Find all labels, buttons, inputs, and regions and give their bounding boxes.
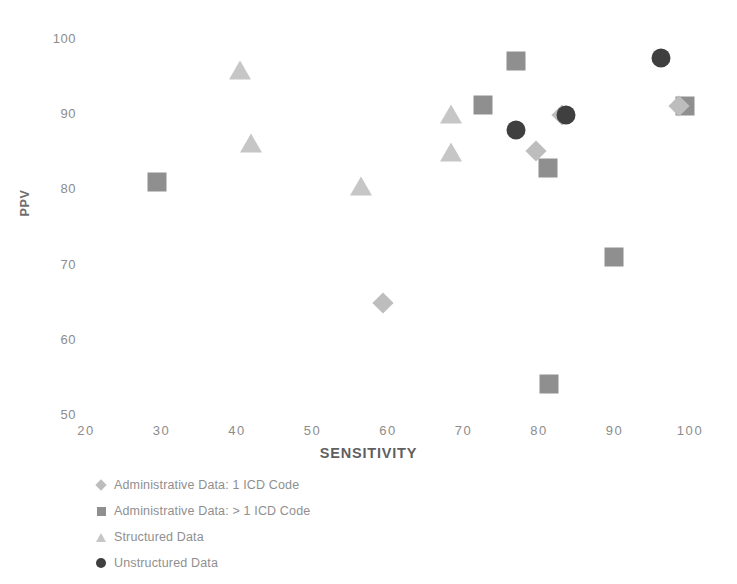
x-axis-tick-90: 90 (606, 423, 624, 438)
data-point-square (147, 173, 166, 192)
data-point-square (474, 95, 493, 114)
circle-icon (93, 558, 109, 568)
y-axis-tick-90: 90 (61, 106, 76, 121)
plot-area (86, 38, 690, 414)
y-axis-title: PPV (18, 190, 32, 217)
legend-item-3[interactable]: Unstructured Data (93, 550, 453, 576)
y-axis-tick-70: 70 (61, 256, 76, 271)
x-axis-tick-70: 70 (455, 423, 473, 438)
square-icon (93, 507, 109, 516)
legend-item-label: Administrative Data: 1 ICD Code (114, 478, 299, 492)
data-point-triangle (440, 143, 462, 162)
x-axis-tick-labels: 2030405060708090100 (86, 423, 690, 441)
data-point-circle (652, 49, 671, 68)
x-axis-tick-100: 100 (677, 423, 704, 438)
x-axis-tick-40: 40 (228, 423, 246, 438)
scatter-chart: 1009080706050 2030405060708090100 PPV SE… (0, 0, 737, 584)
legend-item-1[interactable]: Administrative Data: > 1 ICD Code (93, 498, 453, 524)
legend-item-label: Unstructured Data (114, 556, 218, 570)
x-axis-tick-50: 50 (304, 423, 322, 438)
legend-item-label: Structured Data (114, 530, 204, 544)
data-point-square (539, 159, 558, 178)
chart-legend: Administrative Data: 1 ICD CodeAdministr… (93, 472, 453, 576)
legend-item-label: Administrative Data: > 1 ICD Code (114, 504, 310, 518)
data-point-triangle (440, 104, 462, 123)
x-axis-tick-60: 60 (379, 423, 397, 438)
data-point-square (506, 52, 525, 71)
legend-item-2[interactable]: Structured Data (93, 524, 453, 550)
x-axis-tick-80: 80 (530, 423, 548, 438)
data-point-square (539, 374, 558, 393)
x-axis-tick-20: 20 (77, 423, 95, 438)
y-axis-tick-50: 50 (61, 407, 76, 422)
x-axis-title: SENSITIVITY (0, 445, 737, 461)
y-axis-tick-60: 60 (61, 331, 76, 346)
data-point-triangle (350, 177, 372, 196)
data-point-square (604, 247, 623, 266)
data-point-diamond (372, 292, 393, 313)
data-point-circle (507, 120, 526, 139)
legend-item-0[interactable]: Administrative Data: 1 ICD Code (93, 472, 453, 498)
y-axis-tick-100: 100 (53, 31, 76, 46)
diamond-icon (93, 481, 109, 489)
x-axis-tick-30: 30 (153, 423, 171, 438)
y-axis-tick-80: 80 (61, 181, 76, 196)
data-point-triangle (229, 60, 251, 79)
triangle-icon (93, 533, 109, 542)
data-point-triangle (240, 134, 262, 153)
data-point-circle (557, 105, 576, 124)
y-axis-tick-labels: 1009080706050 (48, 38, 76, 414)
